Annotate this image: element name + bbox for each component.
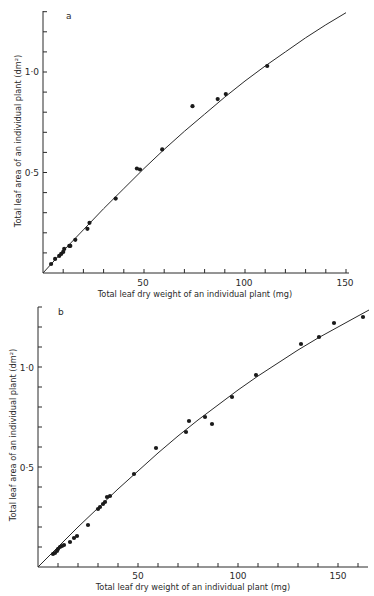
data-point xyxy=(317,335,321,339)
data-point xyxy=(62,543,66,547)
x-tick-label-100: 100 xyxy=(229,571,246,581)
data-point xyxy=(203,415,207,419)
data-point xyxy=(224,92,228,96)
x-tick-label-50: 50 xyxy=(137,278,149,288)
data-point xyxy=(299,342,303,346)
panel-a-axes xyxy=(43,11,349,273)
data-point xyxy=(132,472,136,476)
panel-letter: b xyxy=(58,307,64,317)
data-points xyxy=(51,315,365,556)
fitted-curve xyxy=(38,310,369,567)
fitted-curve xyxy=(43,13,346,273)
data-point xyxy=(85,227,89,231)
data-point xyxy=(86,523,90,527)
y-ticks xyxy=(38,307,42,547)
data-point xyxy=(108,494,112,498)
data-point xyxy=(75,534,79,538)
y-tick-label-1-0: 1·0 xyxy=(25,67,40,77)
y-tick-label-1-0: 1·0 xyxy=(20,363,35,373)
y-axis-title: Total leaf area of an individual plant (… xyxy=(8,349,18,522)
data-point xyxy=(138,167,142,171)
data-point xyxy=(62,247,66,251)
data-point xyxy=(210,422,214,426)
data-point xyxy=(68,244,72,248)
data-point xyxy=(187,419,191,423)
data-point xyxy=(87,221,91,225)
data-point xyxy=(265,64,269,68)
panel-b: 50 100 150 0·5 1·0 Total leaf dry weight… xyxy=(8,307,369,592)
data-point xyxy=(114,197,118,201)
data-point xyxy=(230,395,234,399)
data-point xyxy=(184,430,188,434)
figure: 50 100 150 0·5 1·0 Total leaf dry weight… xyxy=(0,0,374,596)
x-tick-label-150: 150 xyxy=(329,571,346,581)
data-point xyxy=(73,238,77,242)
data-point xyxy=(103,500,107,504)
data-point xyxy=(254,373,258,377)
x-tick-label-100: 100 xyxy=(235,278,252,288)
x-axis-title: Total leaf dry weight of an individual p… xyxy=(95,582,290,592)
x-ticks xyxy=(58,563,358,567)
y-ticks xyxy=(43,12,47,253)
data-point xyxy=(361,315,365,319)
panel-letter: a xyxy=(66,11,72,21)
panel-a: 50 100 150 0·5 1·0 Total leaf dry weight… xyxy=(13,11,354,299)
data-point xyxy=(49,262,53,266)
data-point xyxy=(216,97,220,101)
panel-b-axes xyxy=(38,307,368,567)
data-point xyxy=(190,104,194,108)
data-point xyxy=(332,321,336,325)
y-tick-label-0-5: 0·5 xyxy=(25,168,39,178)
y-tick-label-0-5: 0·5 xyxy=(20,463,34,473)
x-axis-title: Total leaf dry weight of an individual p… xyxy=(97,289,292,299)
data-point xyxy=(98,505,102,509)
data-point xyxy=(68,540,72,544)
y-axis-title: Total leaf area of an individual plant (… xyxy=(13,55,23,228)
data-point xyxy=(53,257,57,261)
data-point xyxy=(154,446,158,450)
x-ticks xyxy=(63,269,346,273)
data-point xyxy=(160,147,164,151)
data-points xyxy=(49,64,269,266)
x-tick-label-150: 150 xyxy=(336,278,353,288)
x-tick-label-50: 50 xyxy=(132,571,144,581)
